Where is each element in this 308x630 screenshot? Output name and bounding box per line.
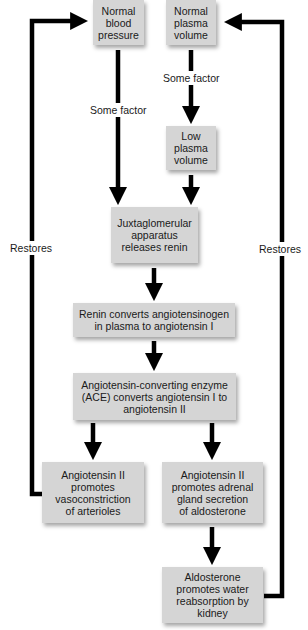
label-restores-left: Restores: [10, 241, 52, 255]
node-low-plasma-volume: Low plasma volume: [166, 126, 216, 170]
label-some-factor-pv: Some factor: [163, 71, 220, 85]
label-restores-right: Restores: [259, 242, 301, 256]
node-normal-blood-pressure: Normal blood pressure: [93, 0, 144, 45]
label-some-factor-bp: Some factor: [90, 103, 147, 117]
arrow-restores-left: [32, 21, 80, 494]
node-juxtaglomerular-apparatus: Juxtaglomerular apparatus releases renin: [111, 207, 198, 263]
node-adrenal-aldosterone: Angiotensin II promotes adrenal gland se…: [162, 462, 263, 523]
flow-diagram: Normal blood pressure Normal plasma volu…: [0, 0, 308, 630]
node-ace-conversion: Angiotensin-converting enzyme (ACE) conv…: [73, 373, 236, 420]
node-vasoconstriction: Angiotensin II promotes vasoconstriction…: [42, 462, 144, 523]
node-renin-conversion: Renin converts angiotensinogen in plasma…: [73, 303, 235, 337]
node-normal-plasma-volume: Normal plasma volume: [166, 0, 216, 45]
node-aldosterone-water-reabsorption: Aldosterone promotes water reabsorption …: [162, 567, 263, 623]
